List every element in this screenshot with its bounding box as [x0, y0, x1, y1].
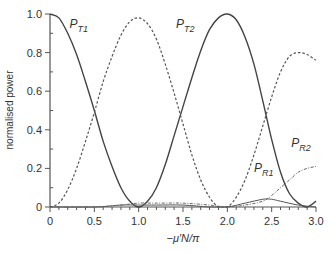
x-tick-label: 2.0: [220, 215, 235, 227]
series-p-r2-line: [50, 166, 316, 207]
x-tick-label: 2.5: [264, 215, 279, 227]
series-label-t1: PT1: [70, 17, 89, 34]
y-tick-label: 0.2: [27, 162, 42, 174]
x-tick-label: 3.0: [308, 215, 323, 227]
x-tick-label: 1.5: [175, 215, 190, 227]
series-label-r2: PR2: [291, 136, 311, 153]
series-label-t2: PT2: [176, 17, 195, 34]
y-tick-label: 0.6: [27, 85, 42, 97]
x-axis-label: −μ′N/π: [167, 232, 201, 244]
y-tick-label: 0.8: [27, 47, 42, 59]
y-axis-label: normalised power: [4, 70, 15, 150]
line-chart: 00.20.40.60.81.000.51.01.52.02.53.0 PT1P…: [0, 0, 333, 253]
series-label-r1: PR1: [254, 161, 274, 178]
series-p-t2-line: [50, 18, 316, 207]
chart-svg: 00.20.40.60.81.000.51.01.52.02.53.0 PT1P…: [0, 0, 333, 253]
series-labels: PT1PT2PR1PR2: [70, 17, 311, 179]
y-tick-label: 1.0: [27, 8, 42, 20]
curves: [50, 14, 316, 207]
series-p-t1-line: [50, 14, 316, 207]
y-tick-label: 0.4: [27, 124, 42, 136]
x-tick-label: 1.0: [131, 215, 146, 227]
y-tick-label: 0: [36, 201, 42, 213]
x-tick-label: 0: [47, 215, 53, 227]
x-tick-label: 0.5: [87, 215, 102, 227]
